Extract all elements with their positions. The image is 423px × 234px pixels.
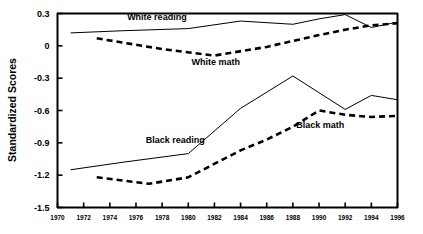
- series-line: [97, 23, 398, 55]
- x-tick-label: 1980: [181, 214, 196, 221]
- x-tick-label: 1992: [338, 214, 353, 221]
- series-label: White math: [191, 57, 240, 67]
- x-tick-label: 1984: [233, 214, 248, 221]
- x-tick-label: 1970: [50, 214, 65, 221]
- y-tick-label: 0: [44, 41, 49, 51]
- series-lines: [71, 15, 398, 184]
- y-tick-label: -1.2: [34, 170, 50, 180]
- series-line: [97, 111, 398, 184]
- y-tick-label: -0.9: [34, 138, 50, 148]
- x-axis-tick-labels: 1970197219741976197819801982198419861988…: [50, 214, 405, 221]
- x-tick-label: 1996: [390, 214, 405, 221]
- series-line: [71, 76, 398, 170]
- series-inline-labels: White readingWhite mathBlack readingBlac…: [127, 12, 344, 145]
- x-tick-label: 1976: [129, 214, 144, 221]
- y-tick-label: -0.3: [34, 73, 50, 83]
- y-tick-label: -0.6: [34, 106, 50, 116]
- series-label: Black math: [296, 120, 344, 130]
- chart-figure: 0.30-0.3-0.6-0.9-1.2-1.5 197019721974197…: [0, 0, 423, 234]
- x-tick-label: 1994: [364, 214, 379, 221]
- y-tick-label: -1.5: [34, 203, 50, 213]
- standardized-scores-line-chart: 0.30-0.3-0.6-0.9-1.2-1.5 197019721974197…: [0, 0, 423, 234]
- y-axis-title: Standardized Scores: [6, 58, 18, 162]
- x-tick-label: 1982: [207, 214, 222, 221]
- x-tick-label: 1972: [76, 214, 91, 221]
- y-axis-tick-labels: 0.30-0.3-0.6-0.9-1.2-1.5: [34, 9, 50, 213]
- x-tick-label: 1974: [103, 214, 118, 221]
- x-tick-label: 1986: [259, 214, 274, 221]
- x-tick-label: 1988: [286, 214, 301, 221]
- y-tick-label: 0.3: [37, 9, 50, 19]
- series-label: Black reading: [146, 135, 205, 145]
- series-label: White reading: [127, 12, 187, 22]
- x-tick-label: 1978: [155, 214, 170, 221]
- x-tick-label: 1990: [312, 214, 327, 221]
